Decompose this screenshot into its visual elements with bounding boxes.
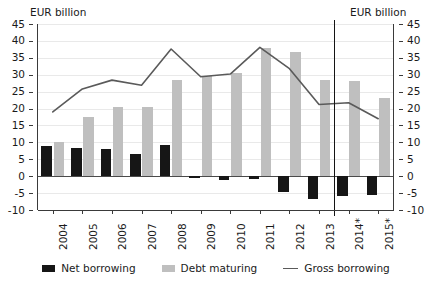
y-axis-tick-label: -5 [407,188,417,199]
y-axis-tick-mark [399,159,403,160]
legend-item-net-borrowing: Net borrowing [42,262,135,274]
y-axis-tick-label: 45 [12,19,25,30]
y-axis-tick-label: 5 [407,154,414,165]
x-axis-tick-label: 2004 [57,223,69,250]
left-axis-line [37,24,38,210]
x-axis-tick-mark [171,210,172,214]
y-axis-tick-mark [29,109,33,110]
chart-legend: Net borrowing Debt maturing Gross borrow… [0,258,432,278]
x-axis-tick-label: 2005 [87,223,99,250]
x-axis-tick-label: 2012 [294,223,306,250]
x-axis-tick-mark [289,210,290,214]
y-axis-tick-mark [29,176,33,177]
y-axis-tick-mark [399,41,403,42]
right-axis-line [393,24,394,210]
x-axis-line [38,210,394,211]
x-axis-tick-label: 2014* [353,218,365,250]
left-axis-caption: EUR billion [30,6,86,18]
y-axis-tick-mark [399,125,403,126]
y-axis-tick-mark [29,41,33,42]
y-axis-tick-mark [29,159,33,160]
y-axis-tick-label: 0 [407,171,414,182]
y-axis-tick-label: 10 [12,137,25,148]
legend-label-net-borrowing: Net borrowing [61,262,135,274]
y-axis-tick-label: 40 [12,35,25,46]
y-axis-tick-label: 35 [407,52,420,63]
y-axis-tick-label: -10 [8,205,25,216]
x-axis-tick-mark [230,210,231,214]
y-axis-tick-mark [399,75,403,76]
x-axis-tick-mark [349,210,350,214]
legend-label-gross-borrowing: Gross borrowing [304,262,389,274]
legend-item-debt-maturing: Debt maturing [162,262,258,274]
legend-swatch-debt-maturing [162,265,175,272]
y-axis-tick-mark [29,193,33,194]
x-axis-tick-label: 2009 [205,223,217,250]
y-axis-tick-label: 0 [18,171,25,182]
y-axis-tick-mark [399,92,403,93]
x-axis-tick-mark [142,210,143,214]
y-axis-tick-label: 35 [12,52,25,63]
y-axis-tick-mark [399,142,403,143]
x-axis-tick-label: 2006 [116,223,128,250]
x-axis-tick-label: 2011 [264,223,276,250]
y-axis-tick-mark [29,210,33,211]
y-axis-tick-mark [29,24,33,25]
x-axis-tick-label: 2013 [324,223,336,250]
y-axis-tick-mark [399,58,403,59]
x-axis-tick-mark [378,210,379,214]
x-axis-tick-label: 2010 [235,223,247,250]
y-axis-tick-label: 20 [407,103,420,114]
y-axis-tick-label: 20 [12,103,25,114]
y-axis-tick-mark [399,24,403,25]
y-axis-tick-mark [29,58,33,59]
x-axis-tick-mark [53,210,54,214]
y-axis-tick-label: 15 [407,120,420,131]
y-axis-tick-mark [399,193,403,194]
x-axis-tick-label: 2015* [383,218,395,250]
x-axis-tick-label: 2008 [176,223,188,250]
y-axis-tick-label: 25 [407,86,420,97]
y-axis-tick-label: 30 [12,69,25,80]
y-axis-tick-mark [29,125,33,126]
forecast-divider-line [334,20,335,216]
right-axis-tick-labels: -10-5051015202530354045 [398,24,432,210]
x-axis-tick-mark [82,210,83,214]
chart-container: EUR billion EUR billion -10-505101520253… [0,0,432,283]
y-axis-tick-label: 15 [12,120,25,131]
x-axis-tick-mark [201,210,202,214]
y-axis-tick-label: 30 [407,69,420,80]
gross-borrowing-line [38,24,393,210]
legend-label-debt-maturing: Debt maturing [181,262,258,274]
legend-item-gross-borrowing: Gross borrowing [283,262,389,274]
y-axis-tick-mark [399,109,403,110]
y-axis-tick-label: -10 [407,205,424,216]
y-axis-tick-label: 5 [18,154,25,165]
y-axis-tick-label: -5 [15,188,25,199]
y-axis-tick-label: 45 [407,19,420,30]
plot-area [38,24,393,210]
left-axis-tick-labels: -10-5051015202530354045 [0,24,33,210]
x-axis-tick-mark [319,210,320,214]
x-axis-tick-mark [260,210,261,214]
y-axis-tick-mark [399,176,403,177]
y-axis-tick-label: 40 [407,35,420,46]
legend-swatch-net-borrowing [42,265,55,272]
x-axis-tick-mark [112,210,113,214]
x-axis-tick-label: 2007 [146,223,158,250]
y-axis-tick-mark [29,75,33,76]
y-axis-tick-mark [399,210,403,211]
y-axis-tick-label: 10 [407,137,420,148]
y-axis-tick-mark [29,92,33,93]
y-axis-tick-mark [29,142,33,143]
right-axis-caption: EUR billion [350,6,406,18]
legend-swatch-gross-borrowing [283,268,298,269]
y-axis-tick-label: 25 [12,86,25,97]
